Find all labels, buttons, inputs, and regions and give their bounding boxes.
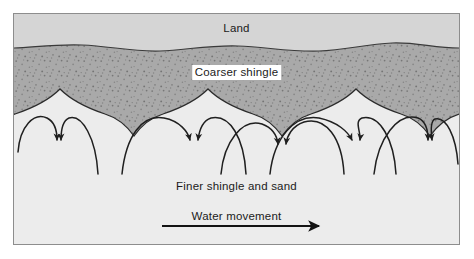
diagram-canvas: Land Coarser shingle Finer shingle and s… bbox=[0, 0, 474, 259]
label-land: Land bbox=[14, 22, 459, 34]
diagram-frame: Land Coarser shingle Finer shingle and s… bbox=[13, 13, 460, 245]
label-water-movement: Water movement bbox=[14, 210, 459, 222]
label-coarser-shingle: Coarser shingle bbox=[192, 65, 282, 80]
label-finer-shingle-and-sand: Finer shingle and sand bbox=[14, 180, 459, 192]
